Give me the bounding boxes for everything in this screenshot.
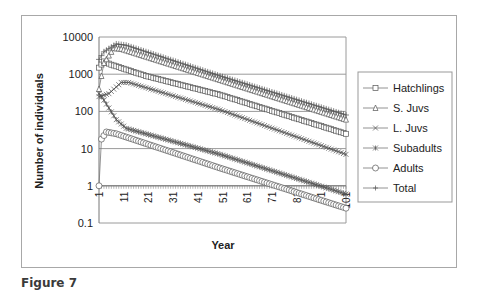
y-tick-label: 100 xyxy=(75,105,93,117)
legend-label: Subadults xyxy=(393,142,442,154)
legend-label: Adults xyxy=(393,162,424,174)
y-tick-label: 10000 xyxy=(62,31,93,43)
x-tick-label: 11 xyxy=(119,191,130,202)
y-tick-label: 1 xyxy=(87,180,93,192)
series-l-juvs xyxy=(97,80,349,157)
x-tick-label: 71 xyxy=(267,191,278,203)
x-tick-label: 1 xyxy=(94,191,105,197)
legend-label: L. Juvs xyxy=(393,122,428,134)
x-tick-label: 51 xyxy=(218,191,229,203)
y-tick-label: 0.1 xyxy=(78,217,93,229)
x-tick-label: 31 xyxy=(168,191,179,203)
legend-label: S. Juvs xyxy=(393,102,430,114)
figure-caption: Figure 7 xyxy=(21,276,77,290)
x-tick-label: 41 xyxy=(193,191,204,203)
legend: HatchlingsS. JuvsL. JuvsSubadultsAdultsT… xyxy=(358,72,452,202)
y-tick-label: 1000 xyxy=(69,68,93,80)
series-hatchlings xyxy=(97,59,349,136)
x-tick-label: 61 xyxy=(242,191,253,203)
y-tick-label: 10 xyxy=(81,143,93,155)
chart-frame: 1000010001001010.11112131415161718191101… xyxy=(21,15,457,268)
legend-label: Hatchlings xyxy=(393,82,445,94)
legend-label: Total xyxy=(393,182,416,194)
x-tick-label: 21 xyxy=(143,191,154,203)
line-chart: 1000010001001010.11112131415161718191101… xyxy=(22,16,458,269)
x-axis-title: Year xyxy=(211,239,235,251)
y-axis-title: Number of individuals xyxy=(33,73,45,189)
